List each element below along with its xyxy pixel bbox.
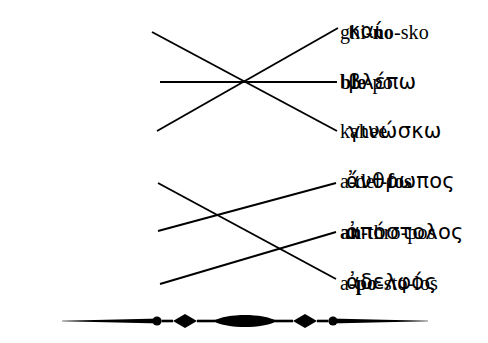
greek-word-apostolos[interactable]: ἀπόστολος (346, 220, 464, 244)
nouns-group: a-del-fos an-thro-pos a-po-sto-los ἄνθρω… (0, 0, 488, 310)
ornament-link-diamond-lens-left (197, 320, 215, 323)
ornament-link-diamond-lens-right (275, 320, 293, 323)
ornament-link-dot-diamond-right (317, 320, 329, 323)
ornament-taper-bar-left (62, 318, 161, 323)
worksheet-page: ghi-no-sko ble-po kahee καί βλέπω γινώσκ… (0, 0, 488, 343)
ornament-link-dot-diamond-left (162, 320, 174, 323)
ornament-diamond-left (173, 314, 197, 328)
ornament-svg (0, 300, 488, 343)
decorative-divider (0, 300, 488, 343)
ornament-diamond-right (293, 314, 317, 328)
greek-word-anthropos[interactable]: ἄνθρωπος (346, 169, 455, 193)
ornament-taper-bar-right (330, 318, 429, 323)
ornament-dot-left (153, 317, 162, 326)
ornament-center-lens (213, 315, 277, 327)
greek-word-adelfos[interactable]: ἀδελφός (346, 270, 437, 294)
ornament-dot-right (329, 317, 338, 326)
